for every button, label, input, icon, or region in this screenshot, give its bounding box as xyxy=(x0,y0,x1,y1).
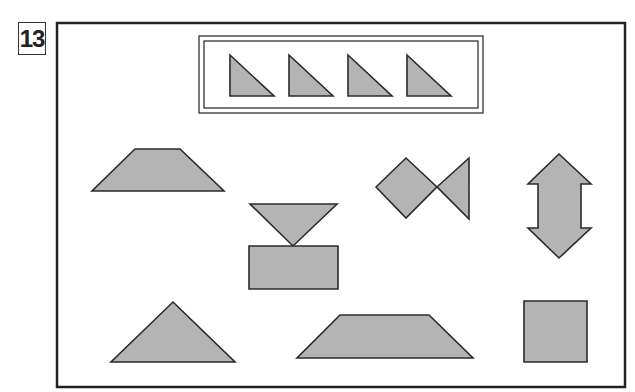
isosceles-triangle-shape[interactable] xyxy=(111,302,235,362)
fish-shape[interactable] xyxy=(376,158,469,219)
trapezoid-long-shape[interactable] xyxy=(297,315,473,358)
answer-shapes xyxy=(92,149,591,362)
right-triangle-shape xyxy=(289,55,333,96)
reference-box xyxy=(199,36,483,113)
trapezoid-wide-shape[interactable] xyxy=(92,149,224,191)
right-triangle-shape xyxy=(407,55,451,96)
right-triangle-shape xyxy=(348,55,392,96)
rectangle-shape[interactable] xyxy=(249,246,338,289)
right-triangle-shape xyxy=(230,55,274,96)
puzzle-canvas xyxy=(0,0,635,392)
square-shape[interactable] xyxy=(524,301,587,362)
double-arrow-shape[interactable] xyxy=(528,154,591,258)
inverted-triangle-shape[interactable] xyxy=(250,204,337,246)
